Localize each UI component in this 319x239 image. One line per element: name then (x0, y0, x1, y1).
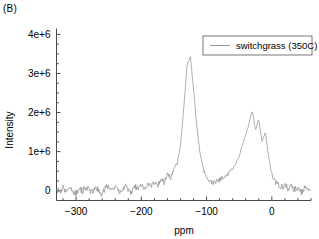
y-tick-label: 4e+6 (28, 29, 51, 40)
y-tick-label: 0 (45, 185, 51, 196)
y-tick-label: 3e+6 (28, 68, 51, 79)
x-axis-title: ppm (174, 225, 193, 236)
y-tick-labels: 01e+62e+63e+64e+6 (28, 29, 51, 196)
x-tick-label: −100 (195, 206, 218, 217)
chart-figure: (B) 01e+62e+63e+64e+6 Intensity −300−200… (0, 0, 319, 239)
x-tick-labels: −300−200−1000 (65, 206, 275, 217)
y-axis-group: 01e+62e+63e+64e+6 Intensity (4, 29, 61, 201)
y-tick-label: 1e+6 (28, 146, 51, 157)
x-tick-label: 0 (269, 206, 275, 217)
legend[interactable]: switchgrass (350C) (203, 36, 317, 55)
x-tick-label: −300 (65, 206, 88, 217)
y-major-ticks (57, 34, 61, 190)
x-axis-group: −300−200−1000 ppm (57, 197, 312, 237)
y-tick-label: 2e+6 (28, 107, 51, 118)
x-major-ticks (76, 197, 272, 201)
plot-area: 01e+62e+63e+64e+6 Intensity −300−200−100… (0, 0, 319, 239)
x-tick-label: −200 (130, 206, 153, 217)
y-axis-title: Intensity (4, 111, 15, 148)
data-series-group (57, 57, 311, 197)
series-line-switchgrass (57, 57, 311, 197)
spectrum-svg: 01e+62e+63e+64e+6 Intensity −300−200−100… (0, 0, 319, 239)
legend-entry-label: switchgrass (350C) (236, 40, 317, 51)
